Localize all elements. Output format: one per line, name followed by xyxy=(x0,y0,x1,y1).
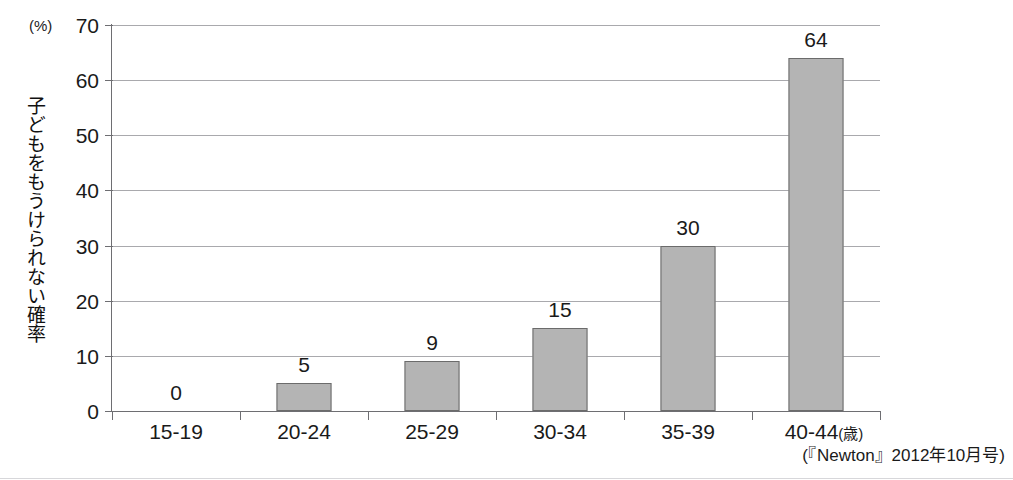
y-axis-tick-label: 60 xyxy=(76,70,99,91)
bar-slot: 30 xyxy=(624,25,752,411)
y-axis-tick-label: 40 xyxy=(76,180,99,201)
bar-value-label: 5 xyxy=(298,354,310,375)
x-axis-category-label: 30-34 xyxy=(496,421,624,442)
bar-slot: 5 xyxy=(240,25,368,411)
bar[interactable] xyxy=(661,246,716,411)
x-axis-tick xyxy=(752,411,753,420)
bar-slot: 64 xyxy=(752,25,880,411)
bottom-rule xyxy=(0,478,1013,479)
bar-slot: 15 xyxy=(496,25,624,411)
x-axis-tick xyxy=(112,411,113,420)
x-axis-tick xyxy=(240,411,241,420)
plot-area: 010203040506070 059153064 xyxy=(112,25,880,411)
x-axis-category-label: 20-24 xyxy=(240,421,368,442)
y-axis-tick-label: 0 xyxy=(87,401,99,422)
bar[interactable] xyxy=(277,383,332,411)
y-axis-unit-label: (%) xyxy=(29,17,52,34)
x-axis-tick xyxy=(624,411,625,420)
bar-value-label: 9 xyxy=(426,332,438,353)
bar[interactable] xyxy=(533,328,588,411)
x-axis-category-label: 25-29 xyxy=(368,421,496,442)
y-axis-tick-label: 10 xyxy=(76,345,99,366)
y-axis-tick-label: 70 xyxy=(76,15,99,36)
bar-slot: 9 xyxy=(368,25,496,411)
source-note: (『Newton』2012年10月号) xyxy=(802,447,1005,464)
y-axis-tick-label: 20 xyxy=(76,290,99,311)
x-axis-category-label: 15-19 xyxy=(112,421,240,442)
x-axis-category-label: 40-44(歳) xyxy=(760,421,888,442)
bar[interactable] xyxy=(405,361,460,411)
y-axis-tick-label: 50 xyxy=(76,125,99,146)
bar-slot: 0 xyxy=(112,25,240,411)
bar-value-label: 15 xyxy=(548,299,571,320)
x-axis-category-label: 35-39 xyxy=(624,421,752,442)
x-axis-tick xyxy=(496,411,497,420)
y-axis-tick-label: 30 xyxy=(76,235,99,256)
x-axis-tick xyxy=(368,411,369,420)
bar-value-label: 30 xyxy=(676,217,699,238)
chart-page: (%) 子どもをもうけられない確率 010203040506070 059153… xyxy=(0,0,1013,480)
y-axis-title: 子どもをもうけられない確率 xyxy=(17,96,45,343)
bar-value-label: 0 xyxy=(170,382,182,403)
bar[interactable] xyxy=(789,58,844,411)
x-axis-tick xyxy=(880,411,881,420)
x-axis-unit-suffix: (歳) xyxy=(838,425,863,442)
bar-value-label: 64 xyxy=(804,29,827,50)
